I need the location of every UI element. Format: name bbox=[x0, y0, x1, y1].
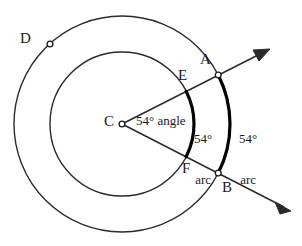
point-label-f: F bbox=[182, 161, 191, 176]
point-marker-c bbox=[119, 121, 125, 127]
annotation-inner-arc-degree: 54° bbox=[194, 132, 212, 146]
outer-highlight-arc bbox=[218, 75, 230, 173]
point-marker-d bbox=[47, 41, 53, 47]
annotation-outer-arc: 54° arc bbox=[239, 105, 257, 214]
annotation-outer-arc-word: arc bbox=[239, 173, 257, 187]
annotation-central-angle-word: angle bbox=[157, 113, 185, 128]
annotation-central-angle-degree: 54° bbox=[136, 113, 154, 128]
arrowhead-upper-icon bbox=[253, 49, 270, 61]
point-label-d: D bbox=[20, 31, 31, 46]
inner-highlight-arc bbox=[186, 91, 194, 156]
annotation-central-angle: 54° angle bbox=[136, 114, 186, 127]
circle-arc-diagram: D A E C F B 54° angle 54° arc 54° arc bbox=[0, 0, 302, 246]
point-label-b: B bbox=[222, 180, 232, 195]
point-marker-a bbox=[215, 72, 221, 78]
arrowhead-lower-icon bbox=[275, 202, 291, 214]
point-label-a: A bbox=[200, 52, 211, 67]
point-marker-b bbox=[215, 170, 221, 176]
point-label-c: C bbox=[104, 114, 114, 129]
point-label-e: E bbox=[178, 68, 187, 83]
annotation-inner-arc: 54° arc bbox=[194, 105, 212, 214]
annotation-inner-arc-word: arc bbox=[194, 173, 212, 187]
annotation-outer-arc-degree: 54° bbox=[239, 132, 257, 146]
